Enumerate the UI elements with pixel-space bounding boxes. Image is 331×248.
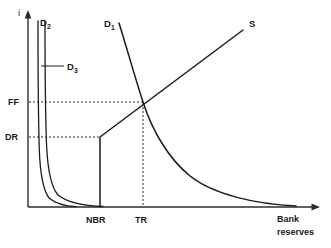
demand-curve-d2	[45, 21, 103, 206]
curve-label-d3: D3	[67, 61, 78, 74]
curve-label-s: S	[249, 18, 255, 29]
y-tick-label-ff: FF	[8, 97, 19, 107]
y-axis-arrowhead	[25, 10, 32, 19]
supply-curve-s	[100, 30, 243, 207]
x-axis-label-line1: Bank	[277, 214, 300, 224]
curve-label-d2: D2	[40, 17, 51, 30]
x-tick-label-nbr: NBR	[86, 215, 106, 225]
x-axis-label-line2: reserves	[277, 227, 314, 237]
curve-label-d1: D1	[104, 18, 115, 31]
chart-canvas: i FF DR NBR TR Bank reserves D2 D3 D1 S	[0, 0, 331, 248]
x-axis-arrowhead	[312, 204, 321, 211]
axes-group	[25, 10, 320, 210]
y-tick-label-dr: DR	[5, 132, 18, 142]
y-axis-label: i	[18, 7, 20, 18]
demand-curve-d3	[38, 21, 76, 207]
federal-funds-market-diagram: i FF DR NBR TR Bank reserves D2 D3 D1 S	[0, 0, 331, 248]
demand-curve-d1	[119, 23, 296, 206]
x-tick-label-tr: TR	[135, 215, 147, 225]
